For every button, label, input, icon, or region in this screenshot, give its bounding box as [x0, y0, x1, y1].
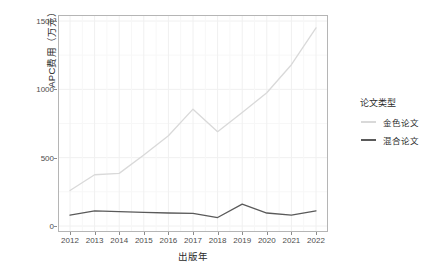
x-tick-label: 2017 [184, 236, 202, 245]
plot-area [59, 16, 327, 231]
legend-line-swatch [361, 139, 376, 141]
x-tick-label: 2013 [86, 236, 104, 245]
chart-root: APC费用（万元） 050010001500 出版年 论文类型 金色论文混合论文… [0, 0, 440, 270]
legend-item-label: 金色论文 [383, 116, 419, 128]
x-tick-mark [119, 232, 120, 235]
legend-line-swatch [361, 121, 376, 123]
x-tick-mark [316, 232, 317, 235]
legend-key-icon [360, 135, 377, 146]
x-tick-label: 2019 [233, 236, 251, 245]
x-tick-label: 2016 [159, 236, 177, 245]
legend-key-icon [360, 117, 377, 128]
x-tick-label: 2021 [282, 236, 300, 245]
y-axis-ticks: 050010001500 [18, 0, 54, 270]
x-tick-mark [267, 232, 268, 235]
x-tick-mark [291, 232, 292, 235]
y-tick-label: 0 [20, 222, 54, 231]
x-tick-label: 2022 [307, 236, 325, 245]
x-tick-label: 2020 [258, 236, 276, 245]
x-tick-label: 2018 [209, 236, 227, 245]
legend-item-label: 混合论文 [383, 134, 419, 146]
x-tick-label: 2012 [61, 236, 79, 245]
legend-item[interactable]: 混合论文 [360, 134, 438, 146]
y-tick-mark [54, 226, 57, 227]
legend-item[interactable]: 金色论文 [360, 116, 438, 128]
x-tick-label: 2014 [110, 236, 128, 245]
x-tick-mark [168, 232, 169, 235]
x-tick-label: 2015 [135, 236, 153, 245]
x-tick-mark [242, 232, 243, 235]
y-tick-label: 1500 [20, 17, 54, 26]
y-tick-mark [54, 89, 57, 90]
y-tick-mark [54, 158, 57, 159]
x-tick-mark [70, 232, 71, 235]
y-tick-label: 1000 [20, 85, 54, 94]
x-tick-mark [193, 232, 194, 235]
x-tick-mark [95, 232, 96, 235]
x-tick-mark [218, 232, 219, 235]
legend-title: 论文类型 [360, 96, 438, 109]
x-axis-title: 出版年 [58, 249, 328, 263]
legend-items: 金色论文混合论文 [360, 116, 438, 146]
x-tick-mark [144, 232, 145, 235]
y-tick-label: 500 [20, 153, 54, 162]
y-tick-mark [54, 21, 57, 22]
plot-panel [58, 15, 328, 232]
legend: 论文类型 金色论文混合论文 [360, 96, 438, 152]
